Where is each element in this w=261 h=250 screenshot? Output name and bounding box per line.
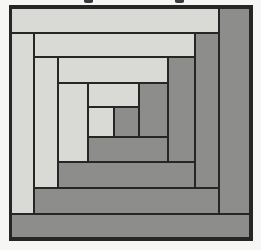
patch-bottom-strip-1 (12, 215, 249, 237)
patch-right-strip-3 (169, 58, 194, 161)
patch-bottom-strip-4 (89, 138, 167, 161)
patch-bottom-strip-2 (35, 189, 218, 213)
patch-left-strip-2 (35, 58, 57, 187)
quilt-block-frame (9, 5, 253, 241)
patch-bottom-strip-3 (59, 163, 194, 187)
patch-right-strip-1 (220, 9, 249, 213)
descender-fragment-right (175, 0, 184, 3)
patch-right-strip-4 (140, 84, 167, 136)
descender-fragment-left (84, 0, 93, 3)
patch-right-strip-2 (196, 34, 218, 187)
patch-left-strip-3 (59, 84, 87, 161)
patch-top-strip-2 (35, 34, 194, 56)
patch-top-strip-4 (89, 84, 138, 106)
patch-top-strip-1 (12, 9, 218, 32)
patch-top-strip-3 (59, 58, 167, 82)
patch-left-strip-1 (12, 34, 33, 213)
patch-left-square-4 (89, 108, 113, 136)
patch-center-square (115, 108, 138, 136)
